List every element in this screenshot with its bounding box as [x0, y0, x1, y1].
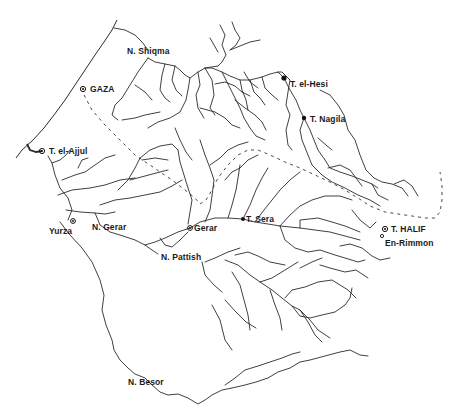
label-en-rimmon: En-Rimmon — [385, 238, 434, 248]
wadi-shiqma-system — [112, 22, 292, 150]
dashed-boundary — [84, 95, 442, 218]
site-sera-symbol — [241, 217, 245, 221]
label-t-halif: T. HALIF — [391, 224, 426, 234]
site-gaza-symbol — [80, 86, 85, 91]
site-en-rimmon-symbol — [380, 234, 383, 237]
label-n-besor: N. Besor — [128, 377, 164, 387]
label-yurza: Yurza — [49, 226, 72, 236]
label-gerar: Gerar — [194, 223, 217, 233]
label-n-pattish: N. Pattish — [161, 252, 201, 262]
site-yurza-symbol — [71, 219, 76, 224]
site-halif-symbol — [382, 226, 387, 231]
label-gaza: GAZA — [90, 84, 114, 94]
wadi-gerar-system — [48, 128, 376, 254]
map-canvas — [0, 0, 451, 417]
label-n-shiqma: N. Shiqma — [127, 46, 169, 56]
site-symbols — [39, 75, 387, 237]
site-hesi-symbol — [281, 75, 286, 80]
label-t-sera: T. Sera — [246, 214, 274, 224]
figure-caption-fragment — [95, 407, 355, 417]
label-t-el-ajjul: T. el-Ajjul — [49, 146, 87, 156]
wadi-pattish-besor-system — [60, 222, 390, 404]
wadi-hesi-system — [284, 78, 418, 206]
site-nagila-symbol — [302, 116, 306, 120]
label-t-nagila: T. Nagila — [310, 114, 345, 124]
site-gerar-symbol — [188, 226, 193, 231]
label-t-el-hesi: T. el-Hesi — [290, 79, 328, 89]
label-n-gerar: N. Gerar — [92, 222, 126, 232]
